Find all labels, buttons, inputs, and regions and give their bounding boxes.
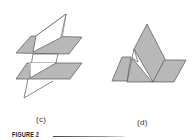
slanted-plane-bottom [24,79,53,98]
caption-rule [53,136,125,137]
panel-d-label: (d) [137,118,148,127]
panel-c-label: (c) [36,115,46,124]
figure-canvas [0,0,193,140]
panel-d-diagram [112,24,186,82]
panel-c-diagram [16,14,82,98]
figure-caption: FIGURE 2 [12,131,39,138]
